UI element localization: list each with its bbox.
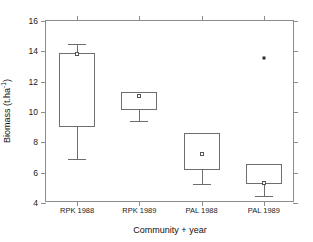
lower-whisker-line [139, 110, 140, 121]
y-tick-right [293, 51, 298, 52]
y-tick-label: 6 [33, 168, 38, 177]
mean-marker [137, 94, 141, 98]
x-tick-top [77, 16, 78, 21]
y-tick-label: 8 [33, 138, 38, 147]
x-tick-top [264, 16, 265, 21]
lower-whisker-cap [193, 184, 211, 185]
y-tick [41, 112, 46, 113]
y-axis-title-text: Biomass (t.ha [2, 88, 12, 143]
plot-frame: 46810121416RPK 1988RPK 1989PAL 1988PAL 1… [45, 20, 294, 202]
plot-area: 46810121416RPK 1988RPK 1989PAL 1988PAL 1… [46, 21, 293, 201]
lower-whisker-line [77, 127, 78, 159]
upper-whisker-cap [68, 44, 86, 45]
outlier-point [262, 57, 265, 60]
mean-marker [262, 181, 266, 185]
y-tick [41, 82, 46, 83]
box-plot-figure: Biomass (t.ha-1) 46810121416RPK 1988RPK … [0, 0, 313, 242]
y-tick-right [293, 112, 298, 113]
lower-whisker-cap [68, 159, 86, 160]
y-tick [41, 203, 46, 204]
x-tick-label: PAL 1989 [248, 207, 280, 215]
y-tick [41, 142, 46, 143]
x-tick-label: PAL 1988 [186, 207, 218, 215]
x-tick-top [139, 16, 140, 21]
y-tick [41, 21, 46, 22]
y-axis-title: Biomass (t.ha-1) [0, 79, 12, 143]
y-axis-title-superscript: -1 [0, 82, 7, 88]
y-tick-right [293, 142, 298, 143]
lower-whisker-cap [255, 196, 273, 197]
y-tick [41, 51, 46, 52]
x-tick-label: RPK 1988 [60, 207, 94, 215]
mean-marker [200, 152, 204, 156]
mean-marker [75, 52, 79, 56]
y-tick-right [293, 21, 298, 22]
y-tick-right [293, 82, 298, 83]
y-tick-label: 10 [29, 108, 38, 117]
y-tick-label: 16 [29, 17, 38, 26]
lower-whisker-line [264, 184, 265, 196]
y-axis-title-tail: ) [2, 79, 12, 82]
y-tick-right [293, 173, 298, 174]
x-tick-top [202, 16, 203, 21]
y-tick-label: 4 [33, 199, 38, 208]
lower-whisker-line [202, 170, 203, 184]
y-tick-right [293, 203, 298, 204]
box-quartile-rect [59, 53, 95, 127]
y-tick-label: 12 [29, 77, 38, 86]
y-tick-label: 14 [29, 47, 38, 56]
x-axis-title: Community + year [133, 225, 206, 235]
lower-whisker-cap [130, 121, 148, 122]
x-tick-label: RPK 1989 [122, 207, 156, 215]
y-tick [41, 173, 46, 174]
